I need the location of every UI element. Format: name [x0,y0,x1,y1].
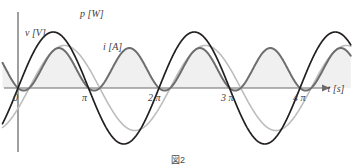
tick-label-2pi: 2 π [148,92,162,103]
waveform-plot: 0 π 2 π 3 π 4 π t [s] v [V] p [W] i [A] [0,0,356,168]
tick-label-pi: π [82,92,88,103]
tick-label-4pi: 4 π [293,92,307,103]
x-axis-label: t [s] [328,83,345,94]
current-curve-label: i [A] [103,41,122,52]
power-area-fill [2,48,350,91]
voltage-curve-label: v [V] [25,27,46,38]
tick-label-3pi: 3 π [220,92,235,103]
power-curve-label: p [W] [79,8,104,19]
curve-labels-group: v [V] p [W] i [A] [25,8,122,52]
tick-label-0: 0 [13,92,18,103]
figure-container: 0 π 2 π 3 π 4 π t [s] v [V] p [W] i [A] … [0,0,356,168]
figure-caption: 図2 [0,153,356,166]
power-fill-group [2,48,350,91]
